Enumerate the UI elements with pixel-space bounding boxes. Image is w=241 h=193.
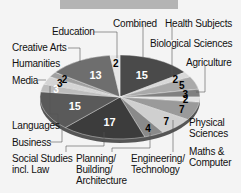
label-health-subjects: Health Subjects bbox=[165, 18, 232, 29]
leader-education bbox=[94, 32, 117, 58]
label-social-studies: Social Studiesincl. Law bbox=[12, 153, 73, 175]
label-humanities: Humanities bbox=[12, 58, 60, 69]
slice-value-label: 13 bbox=[89, 69, 101, 81]
slice-value-label: 2 bbox=[173, 74, 179, 85]
label-maths-line1: Maths & bbox=[189, 146, 224, 157]
label-eng-line2: Technology bbox=[131, 164, 180, 175]
label-education: Education bbox=[52, 26, 95, 37]
slice-value-label: 2 bbox=[62, 74, 68, 85]
label-media: Media bbox=[12, 75, 38, 86]
label-agriculture: Agriculture bbox=[186, 57, 232, 68]
leader-business bbox=[50, 130, 62, 142]
leader-creative bbox=[68, 48, 80, 62]
label-soc-line2: incl. Law bbox=[12, 164, 49, 175]
label-eng-line1: Engineering/ bbox=[131, 153, 185, 164]
label-physical-sciences: PhysicalSciences bbox=[189, 117, 228, 139]
label-planning-building-architecture: Planning/Building/Architecture bbox=[76, 153, 127, 186]
slice-value-label: 17 bbox=[103, 116, 115, 128]
slice-value-label: 7 bbox=[179, 104, 185, 115]
label-languages: Languages bbox=[12, 120, 60, 131]
label-plan-line3: Architecture bbox=[76, 175, 127, 186]
label-plan-line2: Building/ bbox=[76, 164, 113, 175]
label-physical-line1: Physical bbox=[189, 117, 225, 128]
label-plan-line1: Planning/ bbox=[76, 153, 116, 164]
label-engineering-technology: Engineering/Technology bbox=[131, 153, 185, 175]
label-maths-computer: Maths &Computer bbox=[189, 146, 231, 168]
label-creative-arts: Creative Arts bbox=[12, 42, 67, 53]
slice-value-label: 4 bbox=[145, 123, 151, 134]
label-maths-line2: Computer bbox=[189, 157, 231, 168]
label-physical-line2: Sciences bbox=[189, 128, 228, 139]
slice-value-label: 2 bbox=[113, 58, 119, 69]
slice-value-label: 7 bbox=[164, 116, 170, 127]
slice-value-label: 15 bbox=[136, 69, 148, 81]
label-soc-line1: Social Studies bbox=[12, 153, 73, 164]
label-combined: Combined bbox=[113, 18, 157, 29]
label-business: Business bbox=[12, 137, 51, 148]
slice-value-label: 15 bbox=[69, 100, 81, 112]
pie-slices bbox=[40, 55, 200, 143]
label-biological-sciences: Biological Sciences bbox=[150, 38, 232, 49]
